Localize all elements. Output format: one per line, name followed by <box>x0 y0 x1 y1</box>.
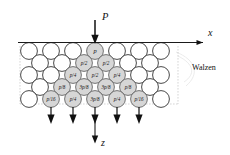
sphere-label-r3-c2: 3p/8 <box>79 84 89 90</box>
sphere-r4-c0 <box>21 91 38 108</box>
reaction-arrow-head-4 <box>113 115 120 125</box>
reaction-arrows <box>47 107 142 124</box>
z-axis-label: z <box>100 137 105 148</box>
reaction-arrow-head-1 <box>47 115 54 125</box>
sphere-label-r2-c2: p/4 <box>69 72 77 78</box>
reaction-arrow-head-5 <box>135 115 142 125</box>
reaction-arrow-head-3 <box>91 115 98 125</box>
sphere-label-r4-c5: p/16 <box>133 96 144 102</box>
sphere-label-r3-c4: p/8 <box>124 84 132 90</box>
applied-load-label: P <box>101 11 109 22</box>
figure-canvas: p p/2 p/2 p/4 p/2 p/4 <box>0 0 230 155</box>
sphere-label-r4-c2: p/4 <box>69 96 77 102</box>
sphere-label-r2-c4: p/4 <box>113 72 121 78</box>
x-axis-label: x <box>207 27 213 38</box>
sphere-r4-c6 <box>153 91 170 108</box>
sphere-label-r1-c3: p/2 <box>102 60 110 66</box>
applied-load-arrow <box>91 20 98 44</box>
reaction-arrow-head-2 <box>69 115 76 125</box>
ghost-arc-decoration-2 <box>178 56 192 82</box>
sphere-label-r1-c2: p/2 <box>80 60 88 66</box>
sphere-label-r2-c3: p/2 <box>91 72 99 78</box>
sphere-label-r4-c4: p/4 <box>113 96 121 102</box>
z-axis-arrowhead <box>92 136 98 144</box>
x-axis-arrowhead <box>197 40 204 45</box>
load-distribution-diagram: p p/2 p/2 p/4 p/2 p/4 <box>0 0 230 155</box>
sphere-label-r4-c3: 3p/8 <box>90 96 100 102</box>
sphere-label-r3-c1: p/8 <box>58 84 66 90</box>
walzen-label: Walzen <box>192 63 216 72</box>
sphere-label-r0-c3: p <box>92 47 96 54</box>
sphere-label-r3-c3: 3p/8 <box>101 84 111 90</box>
sphere-label-r4-c1: p/16 <box>45 96 56 102</box>
